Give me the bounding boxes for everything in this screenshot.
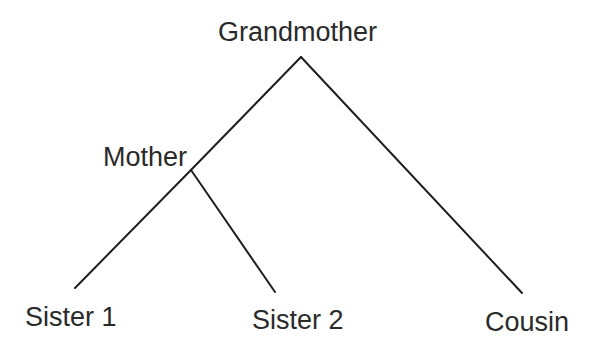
edge-mother-to-sister1 <box>75 170 191 288</box>
node-sister-2: Sister 2 <box>252 305 344 335</box>
family-tree-diagram: Grandmother Mother Sister 1 Sister 2 Cou… <box>0 0 601 353</box>
tree-nodes: Grandmother Mother Sister 1 Sister 2 Cou… <box>25 17 569 337</box>
node-grandmother: Grandmother <box>218 17 377 47</box>
node-cousin: Cousin <box>485 307 569 337</box>
tree-edges <box>75 57 522 293</box>
edge-mother-to-sister2 <box>191 170 275 292</box>
edge-grandmother-to-mother <box>191 57 301 170</box>
node-mother: Mother <box>103 142 187 172</box>
edge-grandmother-to-cousin <box>301 57 522 293</box>
node-sister-1: Sister 1 <box>25 302 117 332</box>
